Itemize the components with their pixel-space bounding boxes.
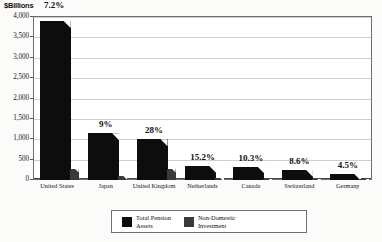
bar-total-pension-assets [137,139,168,180]
y-axis-tick-label: 500 [0,155,29,163]
bar-non-domestic-investment [167,169,176,180]
y-axis-tick-mark [30,57,33,58]
legend-label-non-domestic-investment: Non-Domestic Investment [198,214,236,229]
y-axis-tick-label: 1,500 [0,114,29,122]
value-label-japan: 9% [82,119,130,129]
bar-total-pension-assets [40,21,71,180]
y-axis-tick-mark [30,36,33,37]
y-axis-tick-label: 1,000 [0,134,29,142]
legend-entry-total-pension-assets: Total Pension Assets [122,214,171,229]
value-label-canada: 10.3% [227,153,275,163]
bar-non-domestic-investment [118,176,127,180]
bar-non-domestic-investment [70,169,79,180]
x-axis-label-germany: Germany [308,182,382,189]
legend-label-total-pension-assets: Total Pension Assets [136,214,171,229]
y-axis-tick-mark [30,159,33,160]
chart-legend: Total Pension Assets Non-Domestic Invest… [111,210,307,233]
bar-non-domestic-investment [215,178,224,180]
y-axis-tick-mark [30,179,33,180]
y-axis-tick-label: 2,000 [0,94,29,102]
y-axis-tick-label: 4,000 [0,12,29,20]
y-axis-tick-label: 3,500 [0,32,29,40]
bar-group [88,16,128,180]
value-label-switzerland: 8.6% [275,156,323,166]
bar-total-pension-assets [330,174,361,180]
y-axis-tick-mark [30,16,33,17]
bar-non-domestic-investment [263,179,272,180]
legend-entry-non-domestic-investment: Non-Domestic Investment [184,214,236,229]
black-swatch-icon [122,217,132,227]
bar-total-pension-assets [88,133,119,180]
value-label-united-kingdom: 28% [130,125,178,135]
bar-non-domestic-investment [312,179,321,180]
bar-total-pension-assets [185,166,216,180]
bar-total-pension-assets [282,170,313,180]
y-axis-tick-mark [30,77,33,78]
y-axis-unit-label: $Billions [4,1,33,10]
bar-group [137,16,177,180]
y-axis-tick-label: 2,500 [0,73,29,81]
y-axis-tick-mark [30,118,33,119]
value-label-netherlands: 15.2% [179,152,227,162]
bar-group [330,16,370,180]
gray-swatch-icon [184,217,194,227]
y-axis-tick-mark [30,138,33,139]
chart-figure: $Billions 7.2% 05001,0001,5002,0002,5003… [0,0,382,242]
bar-total-pension-assets [233,167,264,180]
y-axis-tick-mark [30,98,33,99]
bar-group [40,16,80,180]
value-label-germany: 4.5% [324,160,372,170]
bar-non-domestic-investment [360,179,369,180]
value-label-united-states: 7.2% [44,0,64,10]
y-axis-tick-label: 3,000 [0,53,29,61]
